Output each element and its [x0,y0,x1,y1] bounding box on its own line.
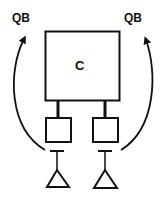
diagram-canvas: QB QB C [0,0,161,203]
left-qb-label: QB [12,11,30,25]
left-curved-arrow-icon [14,39,45,150]
right-qb-label: QB [124,11,142,25]
right-antenna-icon [94,151,117,188]
main-box-label: C [75,58,85,73]
right-sub-box [93,118,118,142]
left-sub-box [46,118,71,142]
left-antenna-icon [47,151,69,187]
right-curved-arrow-icon [121,40,152,150]
